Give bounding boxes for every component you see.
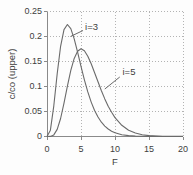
x-tick-label: 10 <box>105 144 125 155</box>
y-tick-label: 0 <box>14 131 42 142</box>
x-axis-title: F <box>105 156 125 168</box>
y-tick-label: 0.2 <box>14 31 42 42</box>
annotation-label-i-3: i=3 <box>85 21 98 32</box>
annotation-label-i-5: i=5 <box>122 66 135 77</box>
x-tick-label: 15 <box>139 144 159 155</box>
y-tick-label: 0.25 <box>14 6 42 17</box>
y-tick-label: 0.15 <box>14 56 42 67</box>
chart-figure: c/co (upper) F i=3i=500.050.10.150.20.25… <box>0 0 193 175</box>
annotation-leader-line <box>105 77 120 89</box>
y-tick-label: 0.05 <box>14 106 42 117</box>
x-tick-label: 0 <box>37 144 57 155</box>
y-tick-label: 0.1 <box>14 81 42 92</box>
x-tick-label: 5 <box>71 144 91 155</box>
x-tick-label: 20 <box>173 144 193 155</box>
